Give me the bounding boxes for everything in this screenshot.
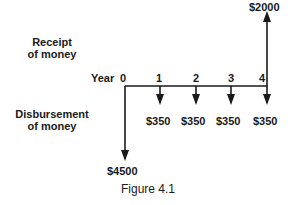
year-tick-1: 1 [156,72,162,84]
year-tick-3: 3 [228,72,234,84]
figure-caption: Figure 4.1 [121,182,175,196]
disbursement-amount-year-0: $4500 [107,165,138,177]
disbursement-amount-year-4: $350 [253,115,277,127]
disbursement-label-line-1: Disbursement [14,108,90,120]
disbursement-amount-year-2: $350 [181,115,205,127]
arrow-down-icon [156,94,164,105]
timeline-lines [125,20,268,152]
receipt-label-line-1: Receipt [26,36,78,48]
cash-flow-diagram [0,0,296,205]
receipt-label: Receipt of money [26,36,78,60]
receipt-label-line-2: of money [26,48,78,60]
arrow-down-icon [227,94,235,105]
year-tick-0: 0 [120,72,126,84]
disbursement-amount-year-3: $350 [216,115,240,127]
disbursement-label-line-2: of money [14,120,90,132]
year-tick-2: 2 [193,72,199,84]
disbursement-amount-year-1: $350 [146,115,170,127]
year-tick-4: 4 [259,72,265,84]
receipt-amount-year-4: $2000 [249,1,280,13]
year-label: Year [91,72,114,84]
arrow-down-icon [263,94,271,105]
arrow-down-icon [121,150,129,161]
disbursement-label: Disbursement of money [14,108,90,132]
arrow-down-icon [192,94,200,105]
